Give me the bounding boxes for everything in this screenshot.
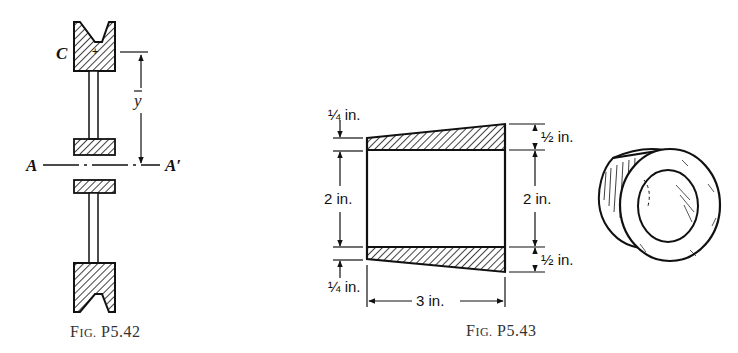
- bottom-rim-section: [74, 263, 115, 312]
- bottom-hub-section: [74, 180, 115, 193]
- caption-prefix: F: [70, 323, 79, 340]
- left-top-thickness-label: ¼ in.: [328, 106, 361, 123]
- y-bar-label: y: [132, 91, 142, 110]
- sleeve-isometric-sketch: [599, 149, 720, 261]
- figure-p5-42: + y C A A′: [25, 22, 181, 312]
- caption-smallcaps: IG.: [475, 325, 492, 339]
- centroid-label: C: [56, 44, 68, 63]
- figure-caption-p5-42: FIG. P5.42: [70, 323, 140, 341]
- top-hub-section: [74, 139, 115, 155]
- caption-number: P5.43: [497, 322, 536, 339]
- figure-p5-43: ¼ in. 2 in. ¼ in. ½ in. 2 in. ½ in. 3 in…: [324, 106, 720, 309]
- axis-label-left: A: [25, 156, 37, 175]
- caption-smallcaps: IG.: [79, 326, 96, 340]
- right-bottom-thickness-label: ½ in.: [541, 251, 574, 268]
- caption-prefix: F: [466, 322, 475, 339]
- axis-label-right: A′: [164, 156, 181, 175]
- bottom-web: [89, 193, 98, 263]
- length-label: 3 in.: [416, 292, 444, 309]
- centroid-plus-icon: +: [92, 45, 98, 57]
- left-inner-label: 2 in.: [324, 190, 352, 207]
- caption-number: P5.42: [101, 323, 140, 340]
- figures-canvas: + y C A A′: [0, 0, 738, 353]
- right-top-thickness-label: ½ in.: [541, 128, 574, 145]
- textbook-figures-page: + y C A A′: [0, 0, 738, 353]
- right-inner-label: 2 in.: [523, 190, 551, 207]
- left-bottom-thickness-label: ¼ in.: [328, 278, 361, 295]
- figure-caption-p5-43: FIG. P5.43: [466, 322, 536, 340]
- top-web: [89, 71, 98, 139]
- top-wall-section: [367, 124, 505, 150]
- bottom-wall-section: [367, 247, 505, 272]
